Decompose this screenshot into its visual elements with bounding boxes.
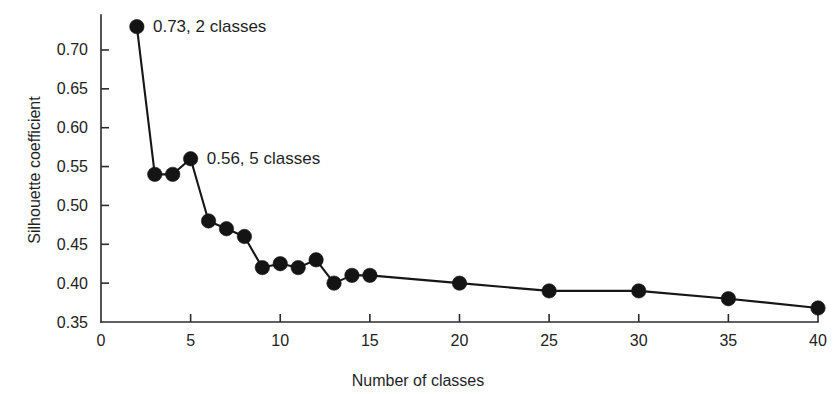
x-tick-label: 35: [719, 332, 737, 349]
data-point-25-classes: [542, 284, 556, 298]
annotation-label-1: 0.73, 2 classes: [153, 17, 266, 36]
data-point-14-classes: [345, 268, 359, 282]
data-point-11-classes: [291, 260, 305, 274]
x-tick-label: 10: [271, 332, 289, 349]
y-axis-tick-labels: 0.350.400.450.500.550.600.650.70: [57, 41, 88, 330]
data-point-8-classes: [237, 229, 251, 243]
x-tick-label: 40: [809, 332, 827, 349]
data-point-35-classes: [721, 291, 735, 305]
x-tick-label: 15: [361, 332, 379, 349]
y-axis-ticks: [101, 50, 109, 283]
annotation-label-2: 0.56, 5 classes: [207, 149, 320, 168]
x-tick-label: 0: [97, 332, 106, 349]
y-axis-group: 0.350.400.450.500.550.600.650.70: [57, 15, 109, 331]
x-tick-label: 25: [540, 332, 558, 349]
data-point-4-classes: [166, 167, 180, 181]
data-point-7-classes: [219, 222, 233, 236]
data-point-40-classes: [811, 301, 825, 315]
y-tick-label: 0.45: [57, 236, 88, 253]
data-point-2-classes: [130, 19, 144, 33]
x-axis-tick-labels: 0510152025303540: [97, 332, 827, 349]
y-tick-label: 0.35: [57, 314, 88, 331]
x-tick-label: 30: [630, 332, 648, 349]
data-point-20-classes: [452, 276, 466, 290]
silhouette-coefficient-line-chart: 0.350.400.450.500.550.600.650.70 0510152…: [0, 0, 835, 394]
chart-container: 0.350.400.450.500.550.600.650.70 0510152…: [0, 0, 835, 394]
data-point-5-classes: [183, 152, 197, 166]
x-axis-title: Number of classes: [352, 372, 485, 389]
data-point-9-classes: [255, 260, 269, 274]
data-point-6-classes: [201, 214, 215, 228]
x-tick-label: 20: [451, 332, 469, 349]
y-tick-label: 0.65: [57, 80, 88, 97]
annotation-group: 0.73, 2 classes0.56, 5 classes: [153, 17, 320, 168]
data-point-15-classes: [363, 268, 377, 282]
y-tick-label: 0.60: [57, 119, 88, 136]
y-tick-label: 0.40: [57, 275, 88, 292]
data-point-30-classes: [632, 284, 646, 298]
x-axis-group: 0510152025303540: [97, 314, 827, 349]
data-point-10-classes: [273, 257, 287, 271]
y-tick-label: 0.50: [57, 197, 88, 214]
y-axis-title: Silhouette coefficient: [26, 96, 43, 244]
y-tick-label: 0.70: [57, 41, 88, 58]
x-tick-label: 5: [186, 332, 195, 349]
x-axis-ticks: [191, 314, 818, 322]
y-tick-label: 0.55: [57, 158, 88, 175]
data-point-13-classes: [327, 276, 341, 290]
data-point-12-classes: [309, 253, 323, 267]
data-point-3-classes: [148, 167, 162, 181]
